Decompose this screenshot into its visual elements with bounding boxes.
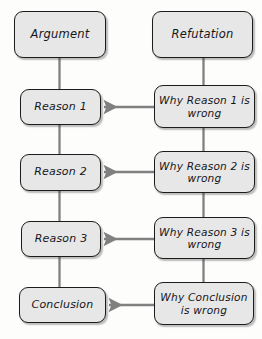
node-why-reason-2-wrong-label: Why Reason 2 is wrong	[155, 160, 254, 184]
node-why-reason-2-wrong[interactable]: Why Reason 2 is wrong	[154, 151, 255, 193]
node-why-reason-3-wrong-label: Why Reason 3 is wrong	[155, 226, 254, 250]
node-reason-2[interactable]: Reason 2	[20, 154, 101, 191]
node-reason-2-label: Reason 2	[30, 166, 91, 179]
node-reason-3-label: Reason 3	[31, 233, 92, 246]
node-conclusion[interactable]: Conclusion	[19, 287, 106, 323]
node-why-reason-3-wrong[interactable]: Why Reason 3 is wrong	[154, 217, 255, 259]
node-why-conclusion-wrong-label: Why Conclusion is wrong	[155, 291, 253, 315]
node-refutation[interactable]: Refutation	[152, 11, 253, 58]
diagram-canvas: Argument Refutation Reason 1 Why Reason …	[0, 0, 262, 339]
node-argument[interactable]: Argument	[14, 11, 106, 58]
node-conclusion-label: Conclusion	[28, 299, 98, 312]
node-refutation-label: Refutation	[168, 28, 238, 41]
node-reason-1-label: Reason 1	[30, 101, 91, 114]
node-why-reason-1-wrong-label: Why Reason 1 is wrong	[155, 94, 254, 118]
node-reason-1[interactable]: Reason 1	[20, 89, 101, 125]
node-why-reason-1-wrong[interactable]: Why Reason 1 is wrong	[154, 85, 255, 128]
node-reason-3[interactable]: Reason 3	[21, 221, 101, 257]
node-argument-label: Argument	[27, 28, 94, 41]
node-why-conclusion-wrong[interactable]: Why Conclusion is wrong	[154, 282, 254, 325]
